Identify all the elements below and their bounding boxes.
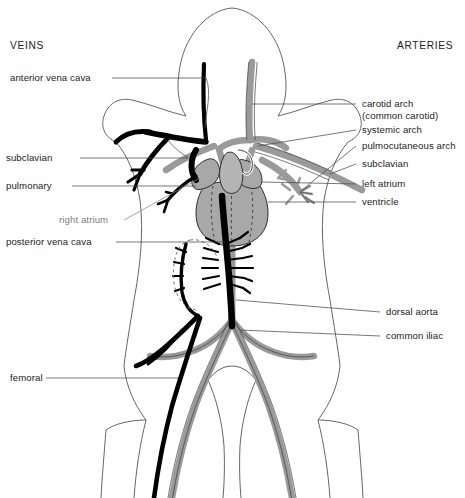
veins-heading: VEINS	[10, 40, 44, 51]
label-carotid-arch-alt: (common carotid)	[362, 110, 438, 121]
renal-branches-left	[202, 238, 220, 289]
renal-portal-vein	[181, 244, 198, 316]
arteries-outline	[150, 62, 331, 498]
label-subclavian-artery: subclavian	[362, 158, 408, 169]
label-pulmonary-vein: pulmonary	[6, 180, 52, 191]
arteries-heading: ARTERIES	[397, 40, 453, 51]
anterior-vena-cava-vessel	[203, 64, 206, 140]
leader-dorsal-aorta	[236, 300, 380, 312]
label-anterior-vena-cava: anterior vena cava	[10, 72, 91, 83]
leader-common-iliac	[240, 330, 380, 336]
label-left-atrium: left atrium	[362, 178, 405, 189]
label-carotid-arch: carotid arch	[362, 98, 413, 109]
label-subclavian-vein: subclavian	[6, 152, 52, 163]
label-posterior-vena-cava: posterior vena cava	[6, 236, 92, 247]
label-common-iliac: common iliac	[386, 330, 443, 341]
carotid-arch-vessel	[249, 62, 252, 140]
label-systemic-arch: systemic arch	[362, 124, 422, 135]
conus-arteriosus	[220, 152, 243, 193]
label-dorsal-aorta: dorsal aorta	[386, 306, 438, 317]
diagram-canvas: VEINS anterior vena cava subclavian pulm…	[0, 0, 465, 498]
leader-subclavian-vein	[80, 140, 188, 158]
label-pulmocutaneous-arch: pulmocutaneous arch	[362, 140, 456, 151]
heart	[192, 150, 268, 246]
label-right-atrium: right atrium	[59, 214, 108, 225]
leader-anterior-vena-cava	[112, 78, 209, 128]
label-femoral-vein: femoral	[10, 372, 43, 383]
label-ventricle: ventricle	[362, 196, 399, 207]
